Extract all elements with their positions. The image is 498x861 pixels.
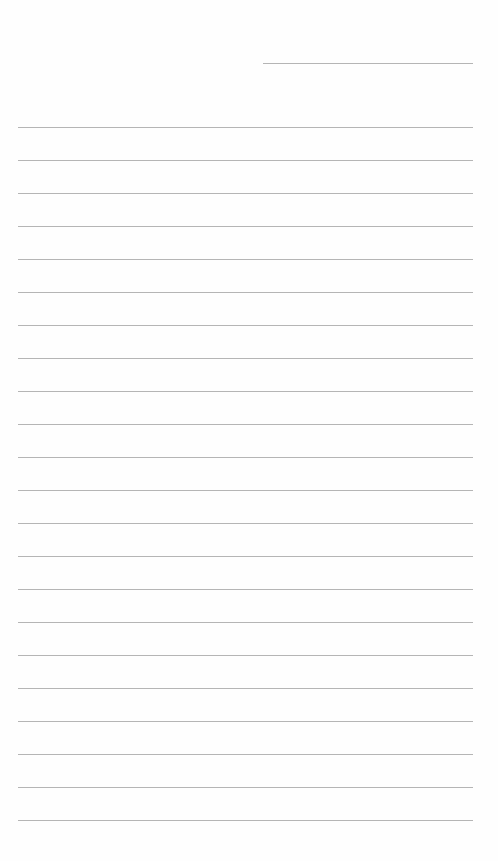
ruled-line (18, 259, 473, 260)
ruled-line (18, 754, 473, 755)
ruled-line (18, 457, 473, 458)
ruled-line (18, 556, 473, 557)
ruled-line (18, 655, 473, 656)
ruled-line (18, 226, 473, 227)
ruled-line (18, 358, 473, 359)
ruled-line (18, 787, 473, 788)
ruled-line (18, 292, 473, 293)
ruled-line (18, 391, 473, 392)
header-date-line (263, 63, 473, 64)
ruled-line (18, 160, 473, 161)
ruled-line (18, 523, 473, 524)
ruled-line (18, 193, 473, 194)
ruled-line (18, 820, 473, 821)
ruled-line (18, 589, 473, 590)
ruled-line (18, 622, 473, 623)
ruled-line (18, 721, 473, 722)
ruled-line (18, 490, 473, 491)
ruled-line (18, 424, 473, 425)
lined-paper-page (0, 0, 498, 861)
ruled-line (18, 688, 473, 689)
ruled-line (18, 325, 473, 326)
ruled-line (18, 127, 473, 128)
